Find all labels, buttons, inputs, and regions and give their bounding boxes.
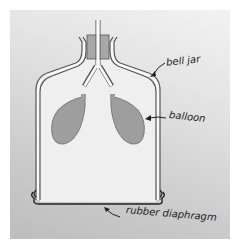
diaphragm-arrow (107, 210, 120, 217)
